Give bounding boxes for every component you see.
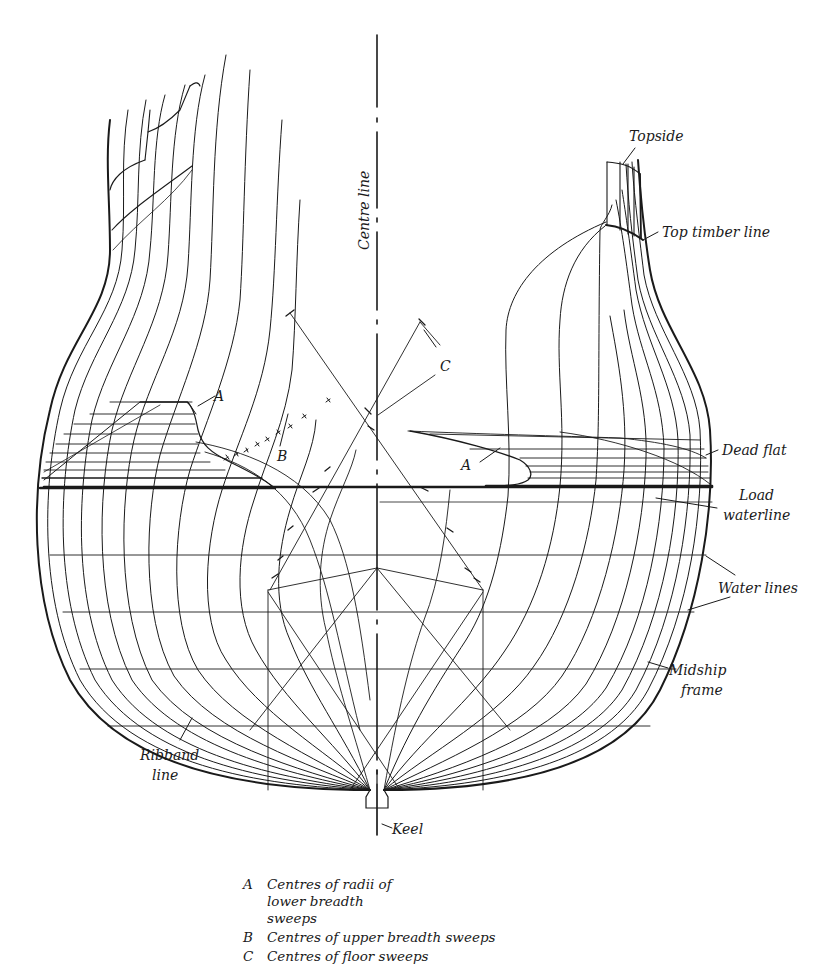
water-lines: [44, 487, 712, 726]
legend-key: C: [243, 948, 267, 965]
right-topside: [606, 162, 643, 240]
label-load-waterline-line1: Load: [739, 487, 774, 503]
label-dead-flat: Dead flat: [722, 442, 787, 458]
label-topside: Topside: [629, 128, 684, 144]
legend-text: Centres of radii of lower breadth sweeps: [267, 876, 417, 927]
left-breadth-lines: [40, 402, 275, 488]
label-centre-line: Centre line: [356, 171, 372, 250]
legend-text: Centres of upper breadth sweeps: [267, 929, 587, 946]
right-breadth-lines: [408, 431, 712, 487]
label-midship-frame-line2: frame: [681, 682, 723, 698]
legend: A Centres of radii of lower breadth swee…: [243, 876, 587, 967]
legend-key: A: [243, 876, 267, 927]
label-keel: Keel: [392, 821, 423, 837]
label-c: C: [440, 358, 451, 374]
legend-item-a: A Centres of radii of lower breadth swee…: [243, 876, 587, 927]
label-ribband-line-line1: Ribband: [140, 747, 199, 763]
legend-key: B: [243, 929, 267, 946]
label-top-timber-line: Top timber line: [662, 224, 770, 240]
legend-text: Centres of floor sweeps: [267, 948, 587, 965]
left-frames: [37, 55, 370, 790]
label-ribband-line-line2: line: [152, 767, 178, 783]
right-frames: [384, 160, 711, 790]
legend-item-b: B Centres of upper breadth sweeps: [243, 929, 587, 946]
label-water-lines: Water lines: [718, 580, 798, 596]
construction-lines: [250, 313, 510, 790]
label-a-left: A: [214, 388, 224, 404]
label-midship-frame-line1: Midship: [669, 662, 726, 678]
legend-item-c: C Centres of floor sweeps: [243, 948, 587, 965]
label-load-waterline-line2: waterline: [723, 507, 790, 523]
label-b: B: [277, 448, 287, 464]
label-a-right: A: [461, 457, 471, 473]
